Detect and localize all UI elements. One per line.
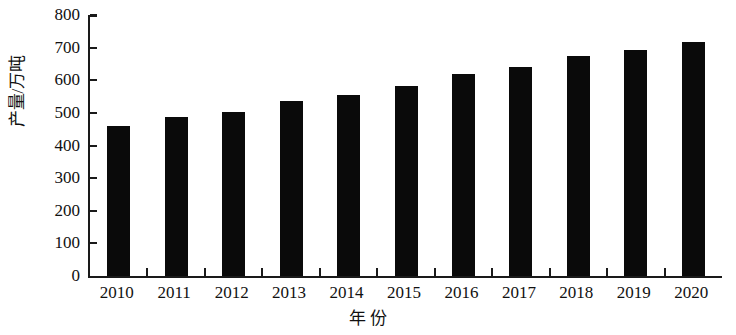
bar [165, 117, 188, 276]
y-axis-tick-mark [90, 112, 97, 114]
bar [452, 74, 475, 276]
y-axis-tick-label: 600 [16, 71, 80, 88]
x-axis-tick-label: 2019 [605, 283, 662, 303]
x-axis-tick-label: 2020 [663, 283, 720, 303]
bar [509, 67, 532, 276]
bar [682, 42, 705, 276]
bar [222, 112, 245, 276]
y-axis-tick-label: 400 [16, 137, 80, 154]
y-axis-tick-mark [90, 14, 97, 16]
x-axis-tick-labels: 2010201120122013201420152016201720182019… [88, 283, 722, 307]
x-axis-title: 年 份 [0, 308, 736, 330]
x-axis-tick-mark [606, 268, 608, 276]
x-axis-tick-mark [549, 268, 551, 276]
x-axis-tick-mark [491, 268, 493, 276]
x-axis-tick-label: 2017 [490, 283, 547, 303]
x-axis-tick-label: 2013 [260, 283, 317, 303]
y-axis-tick-mark [90, 79, 97, 81]
y-axis-tick-label: 300 [16, 169, 80, 186]
x-axis-tick-mark [376, 268, 378, 276]
x-axis-tick-mark [664, 268, 666, 276]
y-axis-tick-label: 0 [16, 267, 80, 284]
y-axis-tick-mark [90, 47, 97, 49]
x-axis-tick-mark [204, 268, 206, 276]
x-axis-tick-label: 2016 [433, 283, 490, 303]
plot-area [88, 15, 722, 278]
bar-chart-figure: 产量/万吨 0100200300400500600700800 20102011… [0, 0, 736, 335]
x-axis-tick-mark [434, 268, 436, 276]
x-axis-tick-mark [146, 268, 148, 276]
x-axis-tick-label: 2018 [548, 283, 605, 303]
y-axis-tick-label: 800 [16, 6, 80, 23]
x-axis-tick-label: 2011 [145, 283, 202, 303]
y-axis-tick-label: 200 [16, 202, 80, 219]
y-axis-tick-label: 100 [16, 234, 80, 251]
bar [107, 126, 130, 276]
x-axis-tick-label: 2010 [88, 283, 145, 303]
y-axis-tick-label: 500 [16, 104, 80, 121]
bar [337, 95, 360, 276]
y-axis-tick-mark [90, 210, 97, 212]
x-axis-tick-label: 2014 [318, 283, 375, 303]
y-axis-tick-mark [90, 145, 97, 147]
bar [567, 56, 590, 276]
x-axis-tick-mark [319, 268, 321, 276]
y-axis-tick-mark [90, 177, 97, 179]
y-axis-tick-labels: 0100200300400500600700800 [16, 0, 80, 300]
x-axis-tick-label: 2015 [375, 283, 432, 303]
bar [395, 86, 418, 276]
y-axis-tick-label: 700 [16, 39, 80, 56]
x-axis-tick-mark [261, 268, 263, 276]
x-axis-tick-label: 2012 [203, 283, 260, 303]
bar [624, 50, 647, 276]
y-axis-tick-mark [90, 242, 97, 244]
bar [280, 101, 303, 276]
